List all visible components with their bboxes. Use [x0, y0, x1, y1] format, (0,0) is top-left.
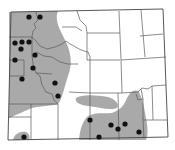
occurrence-dot: [136, 129, 141, 134]
occurrence-dot: [19, 76, 24, 81]
occurrence-dot: [12, 57, 17, 62]
occurrence-dot: [37, 14, 42, 19]
occurrence-dot: [18, 46, 23, 51]
occurrence-dot: [52, 80, 57, 85]
occurrence-dot: [32, 52, 37, 57]
occurrence-dot: [12, 40, 17, 45]
occurrence-dot: [26, 39, 31, 44]
range-west: [9, 11, 71, 118]
occurrence-dot: [55, 93, 60, 98]
occurrence-dot: [96, 134, 101, 139]
distribution-map: [0, 0, 175, 150]
occurrence-dot: [21, 134, 26, 139]
occurrence-dot: [108, 122, 113, 127]
occurrence-dot: [122, 121, 127, 126]
occurrence-dot: [26, 14, 31, 19]
range-southwest-spot: [13, 132, 30, 140]
range-central-band: [76, 95, 118, 109]
range-shading: [9, 11, 148, 140]
occurrence-dot: [115, 126, 120, 131]
occurrence-dot: [19, 39, 24, 44]
occurrence-dot: [87, 117, 92, 122]
occurrence-dot: [30, 65, 35, 70]
